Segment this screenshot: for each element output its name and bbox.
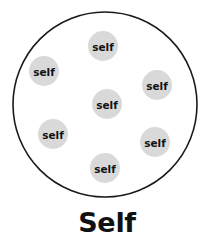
self-node: self [140,127,170,157]
self-diagram: self self self self self self [0,0,215,250]
self-node-label: self [146,80,168,92]
diagram-caption: Self [78,207,136,238]
self-node-label: self [144,137,166,149]
self-node: self [38,119,68,149]
self-node: self [88,31,118,61]
self-node-label: self [42,129,64,141]
self-node: self [92,89,122,119]
self-node: self [29,56,59,86]
self-node-label: self [94,163,116,175]
self-node-label: self [92,41,114,53]
self-node-label: self [33,66,55,78]
self-diagram-canvas: self self self self self self [0,0,215,250]
self-node: self [142,70,172,100]
self-node-label: self [96,99,118,111]
self-node: self [90,153,120,183]
